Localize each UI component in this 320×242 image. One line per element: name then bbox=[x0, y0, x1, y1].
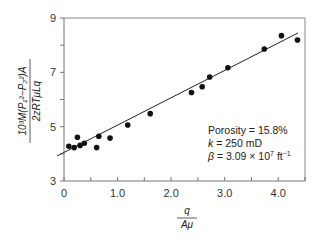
data-point bbox=[189, 90, 195, 96]
data-point bbox=[71, 145, 77, 151]
data-point bbox=[261, 46, 267, 52]
x-tick-label: 2.0 bbox=[163, 187, 178, 199]
x-tick-label: 0 bbox=[61, 187, 67, 199]
data-point bbox=[75, 134, 81, 140]
data-point bbox=[295, 37, 301, 43]
data-point bbox=[96, 133, 102, 139]
x-tick-label: 3.0 bbox=[217, 187, 232, 199]
annotation-permeability: k = 250 mD bbox=[208, 137, 262, 149]
y-axis-label: 10³M(P₁²−P₂²)A 2zRTμLq bbox=[17, 59, 42, 143]
ticks: 01.02.03.04.03579 bbox=[50, 12, 305, 199]
annotation: Porosity = 15.8% k = 250 mD β = 3.09 × 1… bbox=[207, 124, 291, 162]
chart-area: 01.02.03.04.03579 10³M(P₁²−P₂²)A 2zRTμLq… bbox=[0, 0, 320, 242]
data-point bbox=[82, 140, 88, 146]
y-tick-label: 7 bbox=[50, 66, 56, 78]
data-point bbox=[199, 84, 205, 90]
data-point bbox=[66, 143, 72, 149]
data-point bbox=[207, 74, 213, 80]
y-tick-label: 9 bbox=[50, 12, 56, 24]
y-label-numerator: 10³M(P₁²−P₂²)A bbox=[17, 66, 28, 135]
x-label-denominator: Aμ bbox=[180, 219, 194, 230]
x-tick-label: 1.0 bbox=[110, 187, 125, 199]
data-point bbox=[279, 33, 285, 39]
y-tick-label: 5 bbox=[50, 121, 56, 133]
data-point bbox=[107, 135, 113, 141]
annotation-beta: β = 3.09 × 107 ft−1 bbox=[207, 150, 291, 162]
data-point bbox=[125, 122, 131, 128]
x-axis-label: q Aμ bbox=[177, 205, 197, 230]
y-tick-label: 3 bbox=[50, 175, 56, 187]
x-label-numerator: q bbox=[184, 205, 190, 216]
data-point bbox=[147, 111, 153, 117]
y-label-denominator: 2zRTμLq bbox=[31, 80, 42, 122]
data-point bbox=[94, 145, 100, 151]
annotation-porosity: Porosity = 15.8% bbox=[208, 124, 288, 136]
x-tick-label: 4.0 bbox=[271, 187, 286, 199]
data-point bbox=[225, 65, 231, 71]
